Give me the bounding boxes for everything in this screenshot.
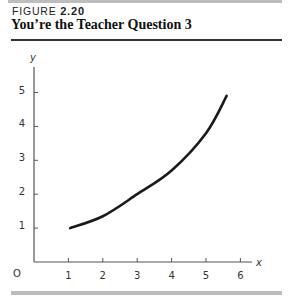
origin-label: O (13, 268, 21, 279)
x-tick-label: 1 (65, 270, 71, 281)
y-tick-label: 2 (19, 186, 25, 197)
chart: xyO 12345612345 (0, 0, 289, 298)
y-tick-label: 5 (19, 85, 25, 96)
y-tick-label: 4 (19, 118, 25, 129)
y-tick-label: 1 (19, 220, 25, 231)
y-tick-label: 3 (19, 152, 25, 163)
axes: xyO (13, 52, 262, 279)
x-tick-label: 5 (203, 270, 209, 281)
y-axis-label: y (29, 52, 37, 63)
data-curve (70, 96, 227, 228)
ticks: 12345612345 (19, 85, 244, 282)
bottom-rule (11, 291, 282, 295)
x-tick-label: 2 (100, 270, 106, 281)
x-tick-label: 4 (168, 270, 174, 281)
x-tick-label: 3 (134, 270, 140, 281)
x-tick-label: 6 (237, 270, 243, 281)
x-axis-label: x (255, 257, 262, 268)
